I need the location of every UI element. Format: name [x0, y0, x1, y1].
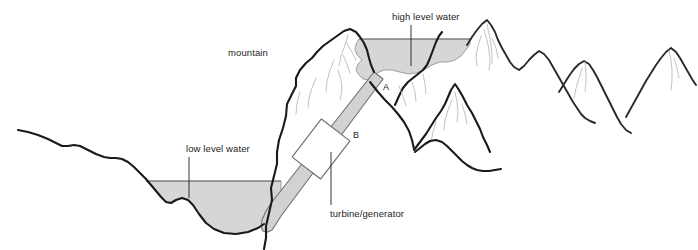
mid-peak-crease — [455, 92, 458, 122]
ridge-crease — [585, 62, 586, 92]
mountain-icon — [414, 84, 490, 152]
background-ridge-right — [559, 48, 696, 133]
mountain-crease — [339, 35, 348, 66]
ridge-crease — [674, 58, 679, 78]
ridge-crease — [476, 36, 481, 66]
hydro-diagram: mountain high level water low level wate… — [0, 0, 698, 250]
diagram-canvas: mountain high level water low level wate… — [0, 0, 698, 250]
mountain-crease — [308, 78, 316, 108]
foreground-peak-outline — [370, 82, 414, 149]
label-point-a: A — [383, 82, 389, 92]
mountain-crease — [343, 55, 350, 73]
ridge-outline — [467, 20, 595, 123]
label-mountain: mountain — [228, 47, 268, 58]
low-ridge-outline — [415, 140, 501, 171]
background-ridge-left — [467, 20, 595, 123]
ridge-crease — [492, 38, 498, 58]
label-low-level-water: low level water — [186, 143, 250, 154]
mountain-crease — [346, 42, 356, 60]
label-turbine-generator: turbine/generator — [330, 208, 404, 219]
label-point-b: B — [353, 130, 359, 140]
mid-peak-outline — [414, 84, 490, 152]
mountain-crease — [338, 70, 342, 100]
ridge-crease — [669, 50, 672, 90]
peak-crease — [412, 82, 416, 102]
ridge-outline — [626, 48, 696, 117]
label-high-level-water: high level water — [392, 11, 460, 22]
mountain-crease — [296, 92, 300, 114]
peak-crease — [423, 74, 426, 94]
foreground-ridge-right — [415, 140, 501, 171]
ridge-crease — [574, 68, 582, 98]
mid-peak-crease — [462, 104, 467, 124]
mountain-crease — [326, 60, 334, 92]
